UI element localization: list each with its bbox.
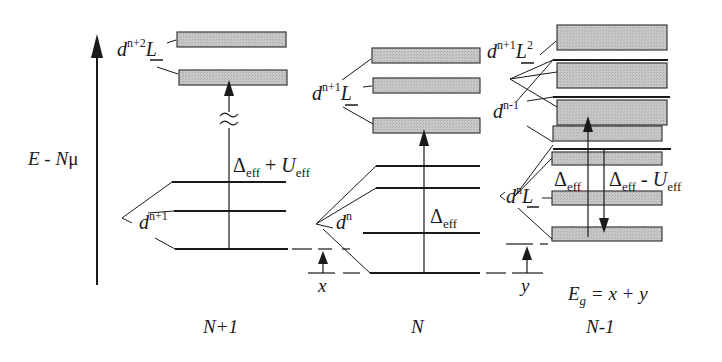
label-dn1: dn+1 bbox=[139, 209, 168, 233]
label-dn: dn bbox=[336, 209, 352, 233]
axis-break-icon bbox=[220, 113, 238, 125]
gap-equation: Eg = x + y bbox=[567, 283, 648, 308]
gap-x-label: x bbox=[317, 275, 327, 296]
energy-axis bbox=[91, 34, 103, 285]
axis-arrowhead-icon bbox=[91, 34, 103, 58]
label-dn2L: dn+2L bbox=[117, 36, 157, 60]
column-label-n-minus-1: N-1 bbox=[585, 316, 615, 337]
band-2 bbox=[557, 63, 667, 88]
label-dn1L2: dn+1L2 bbox=[487, 38, 533, 62]
band-dn1L-3 bbox=[373, 118, 480, 133]
axis-label: E - Nμ bbox=[27, 148, 78, 169]
gap-y-label: y bbox=[519, 275, 530, 296]
band-dn2L-upper bbox=[177, 32, 286, 47]
gap-x-marker bbox=[308, 251, 360, 273]
energy-level-diagram: E - Nμ dn+2L dn+1 Δeff + Ueff x bbox=[0, 0, 722, 362]
band-lowest bbox=[552, 227, 662, 241]
column-label-n-plus-1: N+1 bbox=[202, 316, 238, 337]
energy-delta-minus-u: Δeff - Ueff bbox=[609, 168, 682, 194]
column-n-minus-1 bbox=[510, 25, 671, 241]
label-dn-1: dn-1 bbox=[493, 98, 519, 122]
gap-y-marker bbox=[506, 244, 548, 273]
band-dn1L-2 bbox=[373, 78, 480, 93]
arrowhead-icon bbox=[318, 251, 328, 264]
band-4 bbox=[553, 126, 662, 141]
column-label-n: N bbox=[410, 316, 425, 337]
band-3 bbox=[557, 100, 667, 125]
energy-delta-plus-u: Δeff + Ueff bbox=[233, 154, 311, 180]
label-dnL: dnL bbox=[506, 183, 533, 207]
band-5 bbox=[552, 152, 662, 165]
energy-delta-eff: Δeff bbox=[430, 205, 458, 231]
band-dn2L-lower bbox=[179, 70, 287, 85]
band-dn1L-1 bbox=[372, 48, 480, 63]
label-dn1L: dn+1L bbox=[312, 80, 352, 104]
energy-delta-eff-nm1: Δeff bbox=[554, 168, 582, 194]
band-dn1L2-top bbox=[557, 25, 667, 50]
arrowhead-icon bbox=[522, 246, 532, 260]
